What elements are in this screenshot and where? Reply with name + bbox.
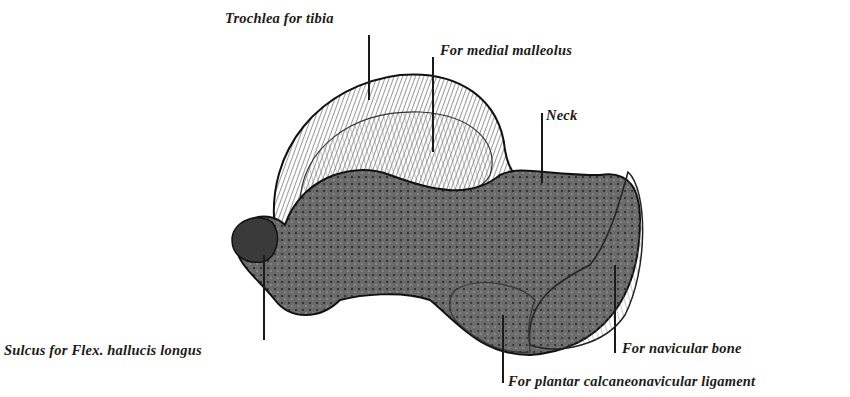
posterior-process	[232, 218, 277, 262]
label-for-plantar-calcaneonavicular-ligament: For plantar calcaneonavicular ligament	[508, 373, 755, 390]
leader-line-trochlea	[368, 35, 370, 100]
leader-line-navicular	[614, 265, 616, 353]
label-for-medial-malleolus: For medial malleolus	[440, 42, 572, 59]
leader-line-plantar-ligament	[502, 315, 504, 383]
label-sulcus-flex-hallucis-longus: Sulcus for Flex. hallucis longus	[4, 342, 202, 359]
talus-bone-illustration	[0, 0, 850, 397]
leader-line-sulcus	[263, 255, 265, 340]
leader-line-medial-malleolus	[432, 57, 434, 152]
plantar-ligament-facet	[450, 283, 535, 353]
label-trochlea-for-tibia: Trochlea for tibia	[225, 10, 334, 27]
label-neck: Neck	[546, 107, 577, 124]
label-for-navicular-bone: For navicular bone	[622, 340, 742, 357]
leader-line-neck	[541, 113, 543, 183]
